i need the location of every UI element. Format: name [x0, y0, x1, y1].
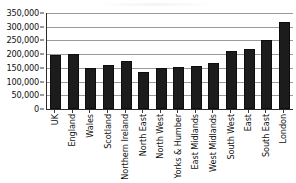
x-label-slot: East — [239, 114, 257, 183]
x-tick-mark — [265, 110, 266, 113]
x-tick-label: South West — [226, 114, 234, 160]
x-tick-mark — [212, 110, 213, 113]
bar — [244, 49, 255, 109]
x-label-slot: South West — [222, 114, 240, 183]
bar-slot — [65, 13, 83, 109]
bar-slot — [205, 13, 223, 109]
x-tick-mark — [125, 110, 126, 113]
x-tick-mark — [54, 110, 55, 113]
bar-slot — [258, 13, 276, 109]
x-tick-label: England — [68, 114, 76, 147]
x-tick-label: North West — [156, 114, 164, 159]
y-tick-mark — [40, 26, 44, 27]
y-tick-label: 150,000 — [7, 64, 39, 72]
bar-slot — [240, 13, 258, 109]
y-tick-label: 100,000 — [7, 78, 39, 86]
x-tick-label: South East — [262, 114, 270, 157]
x-label-slot: Scotland — [99, 114, 117, 183]
x-tick-label: West Midlands — [209, 114, 217, 172]
bar — [50, 55, 61, 109]
x-tick-label: UK — [51, 114, 59, 125]
y-tick-label: 350,000 — [7, 9, 39, 17]
x-tick-mark — [142, 110, 143, 113]
x-tick-label: East — [244, 114, 252, 131]
x-label-slot: Wales — [81, 114, 99, 183]
x-tick-label: Yorks & Humber — [174, 114, 182, 178]
x-tick-label: Northern Ireland — [121, 114, 129, 180]
bars-group — [47, 13, 293, 109]
y-tick-label: 250,000 — [7, 36, 39, 44]
y-tick-mark — [40, 81, 44, 82]
x-label-slot: West Midlands — [204, 114, 222, 183]
x-tick-mark — [283, 110, 284, 113]
bar — [68, 54, 79, 109]
bar — [85, 68, 96, 109]
plot-area — [46, 13, 293, 110]
x-label-slot: Northern Ireland — [116, 114, 134, 183]
x-tick-label: North East — [138, 114, 146, 156]
x-label-slot: Yorks & Humber — [169, 114, 187, 183]
x-tick-mark — [177, 110, 178, 113]
y-tick-mark — [40, 40, 44, 41]
x-label-slot: UK — [46, 114, 64, 183]
x-label-slot: East Midlands — [187, 114, 205, 183]
bar-slot — [100, 13, 118, 109]
bar — [121, 61, 132, 109]
x-tick-label: Wales — [86, 114, 94, 138]
x-tick-mark — [160, 110, 161, 113]
bar — [138, 72, 149, 109]
x-label-slot: England — [64, 114, 82, 183]
bar-slot — [82, 13, 100, 109]
x-tick-label: London — [279, 114, 287, 143]
y-tick-mark — [40, 109, 44, 110]
bar — [226, 51, 237, 109]
x-tick-label: East Midlands — [191, 114, 199, 169]
bar-slot — [47, 13, 65, 109]
x-label-slot: North East — [134, 114, 152, 183]
bar — [191, 66, 202, 109]
x-tick-mark — [195, 110, 196, 113]
bar-chart-figure: 050,000100,000150,000200,000250,000300,0… — [0, 0, 296, 183]
y-tick-label: 200,000 — [7, 50, 39, 58]
bar — [261, 40, 272, 109]
bar — [173, 67, 184, 109]
y-tick-label: 50,000 — [12, 91, 39, 99]
x-tick-mark — [107, 110, 108, 113]
y-tick-label: 300,000 — [7, 23, 39, 31]
bar-slot — [117, 13, 135, 109]
bar-slot — [152, 13, 170, 109]
x-axis-labels: UKEnglandWalesScotlandNorthern IrelandNo… — [46, 114, 292, 183]
bar — [208, 63, 219, 109]
x-tick-mark — [89, 110, 90, 113]
bar — [279, 22, 290, 109]
x-label-slot: South East — [257, 114, 275, 183]
bar-slot — [170, 13, 188, 109]
bar-slot — [135, 13, 153, 109]
y-tick-mark — [40, 13, 44, 14]
bar-slot — [188, 13, 206, 109]
x-label-slot: North West — [151, 114, 169, 183]
bar-slot — [223, 13, 241, 109]
scan-artifact — [96, 3, 216, 6]
x-tick-mark — [72, 110, 73, 113]
y-tick-mark — [40, 67, 44, 68]
x-label-slot: London — [275, 114, 293, 183]
x-tick-label: Scotland — [103, 114, 111, 149]
y-axis: 050,000100,000150,000200,000250,000300,0… — [0, 0, 46, 183]
bar — [103, 65, 114, 109]
bar — [156, 68, 167, 109]
x-tick-mark — [248, 110, 249, 113]
y-tick-label: 0 — [34, 105, 39, 113]
y-tick-mark — [40, 54, 44, 55]
y-tick-mark — [40, 95, 44, 96]
bar-slot — [276, 13, 294, 109]
